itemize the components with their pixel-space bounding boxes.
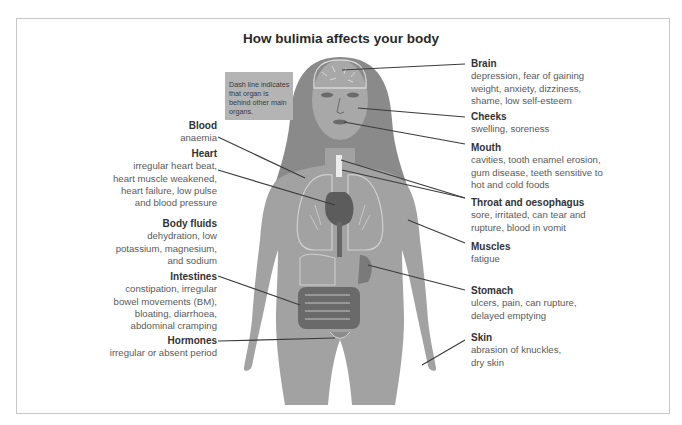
label-line: dehydration, low bbox=[116, 230, 217, 242]
label-line: delayed emptying bbox=[471, 310, 577, 322]
intestines-icon bbox=[298, 287, 360, 329]
label-muscles: Muscles fatigue bbox=[471, 241, 510, 266]
label-line: ulcers, pain, can rupture, bbox=[471, 297, 577, 309]
label-line: cavities, tooth enamel erosion, bbox=[471, 154, 603, 166]
label-heading: Hormones bbox=[110, 335, 217, 347]
label-line: gum disease, teeth sensitive to bbox=[471, 167, 603, 179]
label-blood: Blood anaemia bbox=[180, 120, 217, 145]
left-eye bbox=[321, 93, 333, 98]
label-heading: Intestines bbox=[114, 271, 217, 283]
label-heading: Brain bbox=[471, 58, 584, 70]
label-line: heart muscle weakened, bbox=[113, 173, 217, 185]
label-line: dry skin bbox=[471, 357, 561, 369]
label-line: rupture, blood in vomit bbox=[471, 222, 586, 234]
label-line: abrasion of knuckles, bbox=[471, 344, 561, 356]
label-brain: Brain depression, fear of gaining weight… bbox=[471, 58, 584, 107]
label-line: hot and cold foods bbox=[471, 179, 603, 191]
label-skin: Skin abrasion of knuckles, dry skin bbox=[471, 332, 561, 369]
label-heading: Heart bbox=[113, 148, 217, 160]
label-line: shame, low self-esteem bbox=[471, 95, 584, 107]
label-heading: Blood bbox=[180, 120, 217, 132]
label-throat-oesophagus: Throat and oesophagus sore, irritated, c… bbox=[471, 197, 586, 234]
trachea bbox=[336, 155, 342, 177]
label-line: anaemia bbox=[180, 132, 217, 144]
label-line: weight, anxiety, dizziness, bbox=[471, 83, 584, 95]
label-heading: Body fluids bbox=[116, 218, 217, 230]
label-heart: Heart irregular heart beat, heart muscle… bbox=[113, 148, 217, 209]
label-body-fluids: Body fluids dehydration, low potassium, … bbox=[116, 218, 217, 267]
label-heading: Mouth bbox=[471, 142, 603, 154]
label-line: and blood pressure bbox=[113, 197, 217, 209]
label-line: heart failure, low pulse bbox=[113, 185, 217, 197]
label-heading: Throat and oesophagus bbox=[471, 197, 586, 209]
label-line: sore, irritated, can tear and bbox=[471, 209, 586, 221]
label-line: depression, fear of gaining bbox=[471, 70, 584, 82]
label-intestines: Intestines constipation, irregular bowel… bbox=[114, 271, 217, 332]
label-line: swelling, soreness bbox=[471, 123, 549, 135]
label-line: fatigue bbox=[471, 253, 510, 265]
label-line: constipation, irregular bbox=[114, 283, 217, 295]
label-line: potassium, magnesium, bbox=[116, 243, 217, 255]
label-line: irregular or absent period bbox=[110, 347, 217, 359]
oesophagus bbox=[337, 222, 342, 257]
label-stomach: Stomach ulcers, pain, can rupture, delay… bbox=[471, 285, 577, 322]
label-line: bowel movements (BM), bbox=[114, 296, 217, 308]
label-heading: Skin bbox=[471, 332, 561, 344]
label-cheeks: Cheeks swelling, soreness bbox=[471, 111, 549, 136]
label-line: and sodium bbox=[116, 255, 217, 267]
label-heading: Muscles bbox=[471, 241, 510, 253]
label-line: irregular heart beat, bbox=[113, 160, 217, 172]
label-heading: Stomach bbox=[471, 285, 577, 297]
label-heading: Cheeks bbox=[471, 111, 549, 123]
label-line: bloating, diarrhoea, bbox=[114, 308, 217, 320]
label-line: abdominal cramping bbox=[114, 320, 217, 332]
right-eye bbox=[347, 93, 359, 98]
label-mouth: Mouth cavities, tooth enamel erosion, gu… bbox=[471, 142, 603, 191]
label-hormones: Hormones irregular or absent period bbox=[110, 335, 217, 360]
legend-note: Dash line indicates that organ is behind… bbox=[225, 72, 293, 120]
